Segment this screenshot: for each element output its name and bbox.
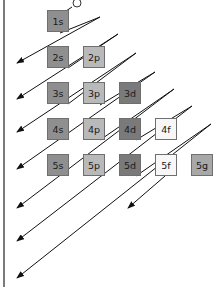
aufbau-diagram: 1s 2s 2p 3s 3p 3d 4s 4p 4d 4f 5s 5p 5d 5… xyxy=(0,0,220,287)
orbital-4f: 4f xyxy=(155,118,177,140)
orbital-5g: 5g xyxy=(191,154,213,176)
orbital-3s: 3s xyxy=(47,82,69,104)
orbital-5s: 5s xyxy=(47,154,69,176)
orbital-5f: 5f xyxy=(155,154,177,176)
orbital-3d: 3d xyxy=(119,82,141,104)
start-circle-icon xyxy=(73,0,81,7)
orbital-5p: 5p xyxy=(83,154,105,176)
orbital-4p: 4p xyxy=(83,118,105,140)
orbital-1s: 1s xyxy=(47,10,69,32)
arrows-layer xyxy=(0,0,220,287)
orbital-4d: 4d xyxy=(119,118,141,140)
orbital-2s: 2s xyxy=(47,46,69,68)
orbital-4s: 4s xyxy=(47,118,69,140)
orbital-3p: 3p xyxy=(83,82,105,104)
orbital-5d: 5d xyxy=(119,154,141,176)
orbital-2p: 2p xyxy=(83,46,105,68)
